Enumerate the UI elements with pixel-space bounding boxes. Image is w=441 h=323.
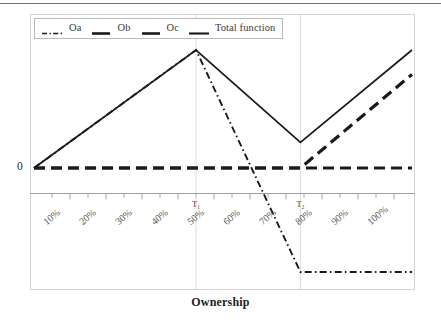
- threshold-label: T₂: [296, 199, 304, 209]
- legend-key-ob-icon: [90, 24, 112, 33]
- legend-item-oc[interactable]: Oc: [140, 23, 179, 34]
- legend-item-total-function[interactable]: Total function: [188, 23, 275, 34]
- plot-frame: [30, 14, 415, 290]
- legend-item-ob[interactable]: Ob: [90, 23, 130, 34]
- chart-figure: Oa Ob Oc Total function 0 10%20%30%40%50…: [0, 0, 441, 323]
- x-axis-title: Ownership: [0, 295, 441, 310]
- legend-key-oc-icon: [140, 24, 162, 33]
- chart-legend[interactable]: Oa Ob Oc Total function: [34, 18, 283, 39]
- y-axis-zero-label: 0: [17, 160, 23, 172]
- legend-key-total-function-icon: [188, 24, 210, 33]
- legend-label-oa: Oa: [69, 23, 81, 34]
- legend-item-oa[interactable]: Oa: [42, 23, 81, 34]
- legend-label-total-function: Total function: [215, 23, 275, 34]
- threshold-label: T₁: [192, 199, 200, 209]
- legend-label-oc: Oc: [167, 23, 179, 34]
- legend-key-oa-icon: [42, 24, 64, 33]
- legend-label-ob: Ob: [117, 23, 130, 34]
- header-rule: [0, 3, 441, 4]
